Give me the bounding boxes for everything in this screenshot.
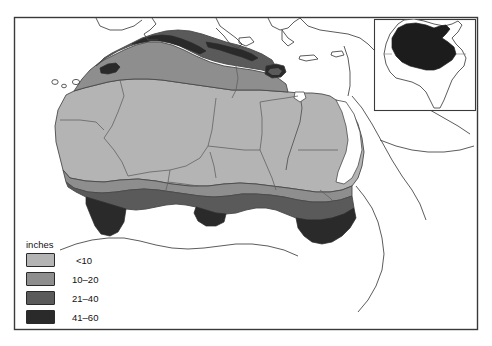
legend-swatch-1 (27, 273, 55, 286)
legend-swatch-0 (27, 254, 55, 267)
africa-locator-inset (375, 19, 476, 111)
legend-title: inches (26, 239, 54, 250)
legend-label-2: 21–40 (72, 293, 98, 304)
legend-label-1: 10–20 (72, 274, 98, 285)
legend-swatch-2 (27, 292, 55, 305)
legend-label-3: 41–60 (72, 312, 98, 323)
legend-label-0: <10 (76, 255, 92, 266)
region-under-10-inches (55, 79, 364, 192)
map-canvas: inches <10 10–20 21–40 41–60 (0, 0, 492, 346)
rainfall-map: inches <10 10–20 21–40 41–60 (0, 0, 492, 346)
legend-swatch-3 (27, 311, 55, 324)
